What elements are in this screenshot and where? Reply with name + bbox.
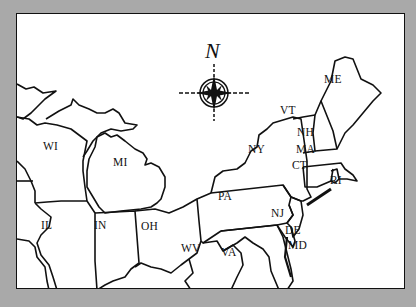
state-label-ma: MA xyxy=(296,144,315,156)
state-label-vt: VT xyxy=(280,105,296,117)
new-hampshire-outline xyxy=(315,101,337,151)
state-label-nh: NH xyxy=(297,127,314,139)
state-label-wv: WV xyxy=(181,243,201,255)
maine-outline xyxy=(321,57,381,149)
state-label-il: IL xyxy=(41,220,52,232)
state-label-nj: NJ xyxy=(271,208,284,220)
state-label-wi: WI xyxy=(43,141,58,153)
state-label-de: DE xyxy=(285,225,301,237)
ohio-outline xyxy=(135,199,201,273)
state-label-oh: OH xyxy=(141,221,158,233)
michigan-outline xyxy=(87,133,165,213)
state-label-ct: CT xyxy=(292,160,307,172)
state-label-ri: RI xyxy=(330,175,342,187)
state-label-mi: MI xyxy=(113,157,127,169)
state-label-pa: PA xyxy=(218,191,232,203)
upper-peninsula-outline xyxy=(17,84,56,119)
state-label-ny: NY xyxy=(248,144,265,156)
virginia-outline xyxy=(223,237,279,289)
compass-north-label: N xyxy=(205,40,220,62)
map-panel: N WIMIILINOHPANYVTNHMEMACTRINJDEMDWVVA xyxy=(16,13,405,289)
state-label-me: ME xyxy=(324,74,342,86)
wisconsin-outline xyxy=(17,117,87,203)
state-label-md: MD xyxy=(288,240,307,252)
state-label-in: IN xyxy=(94,220,107,232)
state-label-va: VA xyxy=(221,247,237,259)
